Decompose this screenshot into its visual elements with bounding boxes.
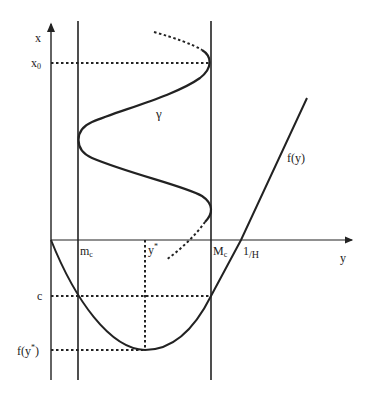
diagram-canvas	[0, 0, 366, 409]
x-axis-label: x	[35, 32, 41, 44]
f-curve	[51, 98, 307, 350]
one-over-H-den: /H	[249, 249, 259, 260]
f-ystar-main: f(y	[17, 344, 31, 358]
x0-label: x0	[31, 57, 41, 71]
x0-label-sub: 0	[37, 62, 41, 71]
gamma-dotted-top	[154, 32, 202, 50]
gamma-dotted-bottom	[166, 222, 205, 260]
gamma-label: γ	[156, 107, 162, 120]
one-over-H-label: 1/H	[243, 245, 259, 260]
Mc-label: Mc	[213, 245, 227, 259]
mc-label-main: m	[80, 244, 89, 258]
f-ystar-close: )	[35, 344, 39, 358]
y-axis-label: y	[340, 252, 346, 264]
ystar-label-sup: *	[154, 242, 158, 251]
gamma-curve	[79, 50, 212, 222]
Mc-label-main: M	[213, 244, 224, 258]
mc-label-sub: c	[89, 250, 93, 259]
fy-label: f(y)	[287, 152, 305, 164]
mc-label: mc	[80, 245, 93, 259]
c-label: c	[37, 290, 42, 302]
Mc-label-sub: c	[224, 250, 228, 259]
ystar-label: y*	[148, 243, 158, 256]
f-ystar-label: f(y*)	[17, 344, 39, 357]
